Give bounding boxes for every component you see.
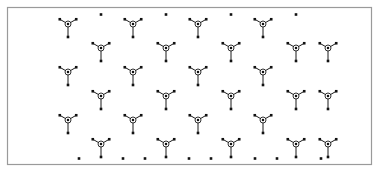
- motif-tip-dot: [318, 138, 321, 141]
- motif-tip-dot: [197, 36, 200, 39]
- motif-tip-dot: [58, 114, 61, 117]
- motif-tip-dot: [335, 138, 338, 141]
- motif-tip-dot: [173, 42, 176, 45]
- motif-tip-dot: [75, 18, 78, 21]
- motif-tip-dot: [165, 108, 168, 111]
- motif-tip-dot: [303, 42, 306, 45]
- motif-tip-dot: [188, 66, 191, 69]
- motif-hub-core: [67, 23, 70, 26]
- motif-tip-dot: [100, 60, 103, 63]
- motif-hub-core: [165, 47, 168, 50]
- motif-tip-dot: [238, 138, 241, 141]
- motif-tip-dot: [58, 66, 61, 69]
- motif-tip-dot: [270, 66, 273, 69]
- motif-tip-dot: [253, 18, 256, 21]
- motif-hub-core: [262, 71, 265, 74]
- motif-tip-dot: [67, 84, 70, 87]
- motif-hub-core: [230, 95, 233, 98]
- motif-tip-dot: [140, 66, 143, 69]
- motif-tip-dot: [173, 90, 176, 93]
- motif-tip-dot: [140, 114, 143, 117]
- motif-tip-dot: [132, 132, 135, 135]
- motif-tip-dot: [123, 66, 126, 69]
- motif-tip-dot: [75, 114, 78, 117]
- isolated-dot: [295, 13, 298, 16]
- isolated-dot: [78, 157, 81, 160]
- motif-tip-dot: [58, 18, 61, 21]
- motif-tip-dot: [253, 66, 256, 69]
- motif-tip-dot: [286, 138, 289, 141]
- motif-tip-dot: [132, 84, 135, 87]
- motif-tip-dot: [205, 18, 208, 21]
- motif-tip-dot: [205, 114, 208, 117]
- motif-tip-dot: [123, 114, 126, 117]
- isolated-dot: [188, 157, 191, 160]
- motif-hub-core: [262, 119, 265, 122]
- motif-hub-core: [100, 47, 103, 50]
- motif-tip-dot: [67, 132, 70, 135]
- isolated-dot: [165, 13, 168, 16]
- isolated-dot: [254, 157, 257, 160]
- motif-hub-core: [197, 23, 200, 26]
- isolated-dot: [230, 13, 233, 16]
- lattice-figure: [0, 0, 380, 173]
- motif-hub-core: [165, 95, 168, 98]
- motif-tip-dot: [75, 66, 78, 69]
- motif-tip-dot: [156, 42, 159, 45]
- motif-hub-core: [67, 119, 70, 122]
- motif-hub-core: [295, 143, 298, 146]
- motif-tip-dot: [335, 42, 338, 45]
- motif-tip-dot: [262, 36, 265, 39]
- motif-tip-dot: [91, 42, 94, 45]
- motif-tip-dot: [173, 138, 176, 141]
- isolated-dot: [100, 13, 103, 16]
- motif-tip-dot: [230, 156, 233, 159]
- motif-tip-dot: [262, 132, 265, 135]
- motif-hub-core: [132, 23, 135, 26]
- motif-tip-dot: [205, 66, 208, 69]
- motif-tip-dot: [253, 114, 256, 117]
- motif-tip-dot: [67, 36, 70, 39]
- motif-hub-core: [197, 71, 200, 74]
- motif-tip-dot: [238, 42, 241, 45]
- motif-hub-core: [230, 47, 233, 50]
- isolated-dot: [210, 157, 213, 160]
- motif-tip-dot: [270, 114, 273, 117]
- motif-hub-core: [295, 95, 298, 98]
- motif-tip-dot: [91, 90, 94, 93]
- border-frame: [8, 8, 372, 165]
- motif-tip-dot: [327, 108, 330, 111]
- motif-tip-dot: [221, 42, 224, 45]
- motif-tip-dot: [238, 90, 241, 93]
- motif-tip-dot: [270, 18, 273, 21]
- motif-tip-dot: [91, 138, 94, 141]
- motif-hub-core: [132, 119, 135, 122]
- motif-hub-core: [327, 47, 330, 50]
- motif-tip-dot: [335, 90, 338, 93]
- motif-hub-core: [327, 95, 330, 98]
- isolated-dot: [320, 157, 323, 160]
- isolated-dot: [144, 157, 147, 160]
- motif-tip-dot: [318, 90, 321, 93]
- motif-tip-dot: [295, 108, 298, 111]
- motif-tip-dot: [165, 156, 168, 159]
- motif-tip-dot: [286, 90, 289, 93]
- motif-tip-dot: [140, 18, 143, 21]
- motif-tip-dot: [108, 42, 111, 45]
- motif-hub-core: [100, 95, 103, 98]
- motif-tip-dot: [156, 90, 159, 93]
- motif-tip-dot: [318, 42, 321, 45]
- motif-tip-dot: [303, 138, 306, 141]
- motif-hub-core: [197, 119, 200, 122]
- motif-tip-dot: [100, 108, 103, 111]
- motif-hub-core: [262, 23, 265, 26]
- motif-tip-dot: [327, 60, 330, 63]
- motif-tip-dot: [188, 114, 191, 117]
- motif-tip-dot: [123, 18, 126, 21]
- motif-hub-core: [327, 143, 330, 146]
- isolated-dot: [122, 157, 125, 160]
- motif-tip-dot: [132, 36, 135, 39]
- motif-hub-core: [67, 71, 70, 74]
- motif-tip-dot: [188, 18, 191, 21]
- motif-hub-core: [100, 143, 103, 146]
